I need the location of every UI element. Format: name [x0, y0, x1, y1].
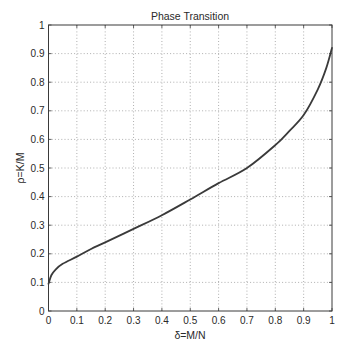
- y-tick-label: 0.7: [31, 105, 45, 116]
- x-tick-labels: 00.10.20.30.40.50.60.70.80.91: [46, 315, 336, 326]
- y-tick-label: 0.5: [31, 163, 45, 174]
- y-axis-label: ρ=K/M: [14, 153, 26, 184]
- y-tick-label: 0.3: [31, 220, 45, 231]
- x-tick-label: 0: [46, 315, 52, 326]
- grid-lines: [49, 25, 333, 311]
- x-tick-label: 0.3: [127, 315, 141, 326]
- x-tick-label: 0.7: [240, 315, 254, 326]
- y-tick-label: 0: [39, 306, 45, 317]
- phase-transition-chart: 00.10.20.30.40.50.60.70.80.91 00.10.20.3…: [0, 0, 349, 355]
- y-tick-label: 0.1: [31, 277, 45, 288]
- x-tick-label: 0.4: [155, 315, 169, 326]
- y-tick-label: 0.9: [31, 48, 45, 59]
- y-tick-label: 0.2: [31, 248, 45, 259]
- y-tick-label: 0.8: [31, 77, 45, 88]
- x-tick-label: 0.8: [268, 315, 282, 326]
- y-tick-labels: 00.10.20.30.40.50.60.70.80.91: [31, 20, 45, 317]
- x-axis-label: δ=M/N: [174, 329, 205, 341]
- x-tick-label: 0.5: [183, 315, 197, 326]
- chart-title: Phase Transition: [151, 10, 229, 22]
- x-tick-label: 0.1: [70, 315, 84, 326]
- x-tick-label: 0.9: [297, 315, 311, 326]
- x-tick-label: 0.2: [98, 315, 112, 326]
- y-tick-label: 0.4: [31, 191, 45, 202]
- y-tick-label: 1: [39, 20, 45, 31]
- x-tick-label: 1: [329, 315, 335, 326]
- y-tick-label: 0.6: [31, 134, 45, 145]
- x-tick-label: 0.6: [212, 315, 226, 326]
